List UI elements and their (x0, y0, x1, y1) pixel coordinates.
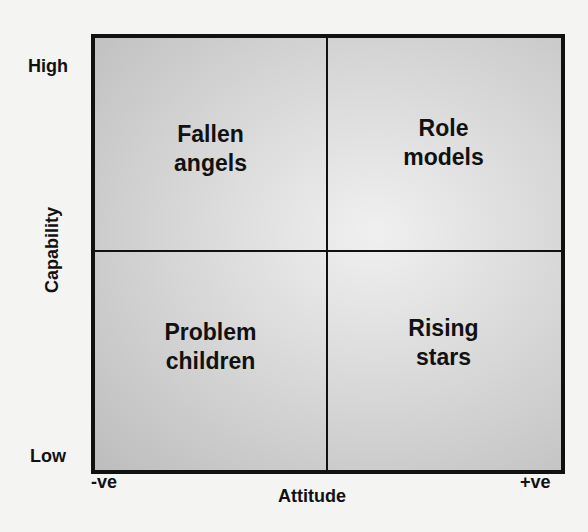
quadrant-label-line2: angels (95, 149, 326, 178)
y-axis-title: Capability (42, 207, 63, 293)
quadrant-label-line2: children (95, 347, 326, 376)
x-axis-low-label: -ve (91, 472, 117, 493)
quadrant-label-line1: Problem (95, 318, 326, 347)
y-axis-high-label: High (28, 56, 68, 77)
quadrant-label-line1: Rising (328, 314, 559, 343)
quadrant-label-line1: Fallen (95, 120, 326, 149)
horizontal-divider (95, 250, 561, 252)
quadrant-fallen-angels: Fallen angels (95, 120, 326, 178)
quadrant-label-line1: Role (328, 114, 559, 143)
y-axis-low-label: Low (30, 446, 66, 467)
quadrant-label-line2: models (328, 143, 559, 172)
vertical-divider (326, 38, 328, 470)
matrix-box: Fallen angels Role models Problem childr… (91, 34, 565, 474)
x-axis-high-label: +ve (520, 472, 551, 493)
quadrant-problem-children: Problem children (95, 318, 326, 376)
quadrant-label-line2: stars (328, 343, 559, 372)
x-axis-title: Attitude (278, 486, 346, 507)
quadrant-role-models: Role models (328, 114, 559, 172)
quadrant-rising-stars: Rising stars (328, 314, 559, 372)
